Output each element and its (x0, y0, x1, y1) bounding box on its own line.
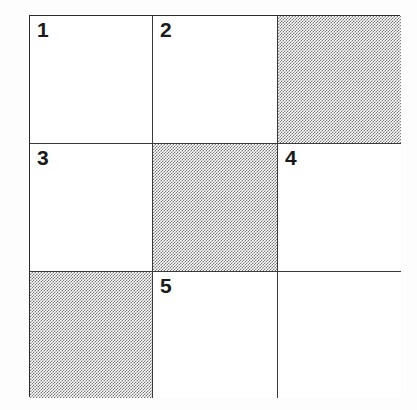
cell-label-5: 5 (160, 274, 172, 297)
page-canvas: 1 2 3 4 5 (0, 0, 417, 410)
cell-label-2: 2 (160, 18, 172, 41)
grid-cell-r3c3[interactable] (278, 272, 401, 398)
grid-cell-r1c3-shaded[interactable] (278, 16, 401, 144)
cell-label-4: 4 (285, 146, 297, 169)
cell-label-1: 1 (37, 18, 49, 41)
grid-cell-r2c2-shaded[interactable] (153, 144, 278, 272)
grid-cell-r3c2[interactable]: 5 (153, 272, 278, 398)
grid-diagram: 1 2 3 4 5 (29, 15, 400, 397)
grid-cell-r2c1[interactable]: 3 (30, 144, 153, 272)
grid-cell-r2c3[interactable]: 4 (278, 144, 401, 272)
cell-label-3: 3 (37, 146, 49, 169)
grid-cell-r1c1[interactable]: 1 (30, 16, 153, 144)
grid-cell-r3c1-shaded[interactable] (30, 272, 153, 398)
grid-cell-r1c2[interactable]: 2 (153, 16, 278, 144)
